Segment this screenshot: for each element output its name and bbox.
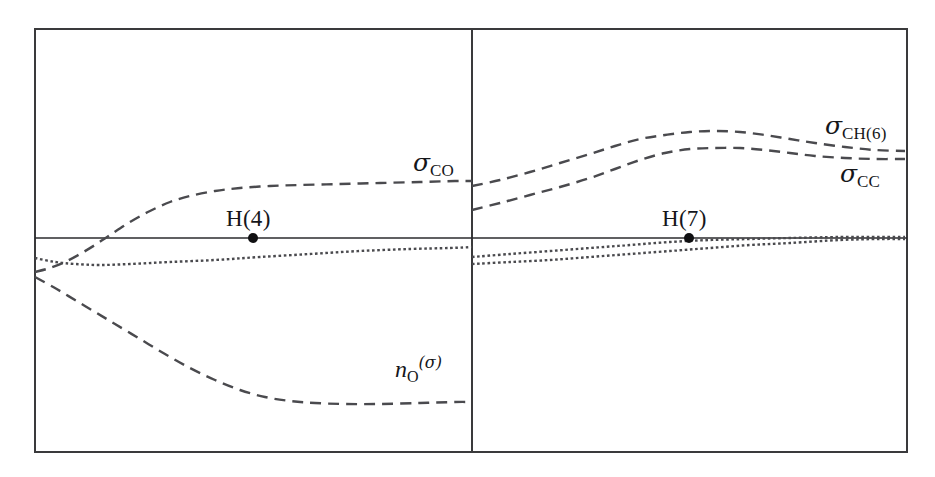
sigma-ch6-subscript: CH(6) xyxy=(842,124,886,143)
curve-dotted1 xyxy=(35,247,472,265)
curve-label-n-o-sigma: nO(σ) xyxy=(395,355,442,385)
figure-root: σCO nO(σ) σCH(6) σCC H(4) H(7) xyxy=(0,0,935,477)
curve-label-sigma-ch6: σCH(6) xyxy=(825,113,887,142)
n-glyph: n xyxy=(395,356,407,382)
curves-layer xyxy=(35,131,905,404)
sigma-glyph: σ xyxy=(413,148,430,177)
sigma-co-subscript: CO xyxy=(430,161,454,180)
sigma-glyph: σ xyxy=(840,159,857,188)
marker-label-h7: H(7) xyxy=(662,207,707,230)
orbital-correlation-plot xyxy=(0,0,935,477)
marker-dot-H4 xyxy=(248,233,258,243)
sigma-glyph: σ xyxy=(825,111,842,140)
right-panel xyxy=(472,131,905,264)
sigma-cc-subscript: CC xyxy=(857,172,880,191)
curve-nO() xyxy=(35,277,472,404)
curve-label-sigma-cc: σCC xyxy=(840,161,880,190)
n-o-superscript: (σ) xyxy=(419,354,442,371)
marker-dot-H7 xyxy=(684,233,694,243)
curve-label-sigma-co: σCO xyxy=(413,150,454,179)
plot-frame xyxy=(35,29,907,452)
marker-label-h4: H(4) xyxy=(226,207,271,230)
n-o-subscript: O xyxy=(407,368,419,385)
